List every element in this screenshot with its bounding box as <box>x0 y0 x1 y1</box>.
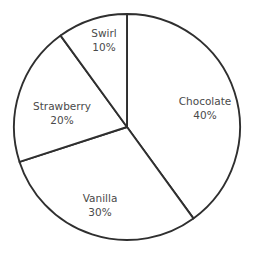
pie-chart: Chocolate 40% Vanilla 30% Strawberry 20%… <box>0 0 254 254</box>
pie-slices-group <box>14 14 240 240</box>
pie-chart-canvas <box>0 0 254 254</box>
